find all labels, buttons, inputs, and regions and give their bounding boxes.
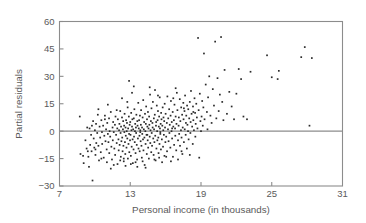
data-point [154, 135, 156, 137]
data-point [157, 139, 159, 141]
data-point [119, 110, 121, 112]
data-point [168, 140, 170, 142]
data-point [137, 102, 139, 104]
data-point [172, 156, 174, 158]
data-point [152, 101, 154, 103]
data-point [96, 132, 98, 134]
data-point [182, 127, 184, 129]
x-tick-label: 31 [337, 188, 348, 199]
data-point [142, 117, 144, 119]
data-point [93, 138, 95, 140]
data-point [123, 160, 125, 162]
data-point [224, 69, 226, 71]
data-point [139, 129, 141, 131]
data-point [122, 150, 124, 152]
data-point [105, 140, 107, 142]
data-point [304, 46, 306, 48]
data-point [156, 148, 158, 150]
x-tick-label: 7 [57, 188, 62, 199]
data-point [91, 150, 93, 152]
data-point [127, 158, 129, 160]
data-point [136, 159, 138, 161]
data-point [95, 123, 97, 125]
data-point [158, 126, 160, 128]
data-point [190, 90, 192, 92]
data-point [147, 139, 149, 141]
data-point [167, 96, 169, 98]
data-point [164, 103, 166, 105]
data-point [146, 118, 148, 120]
data-point [133, 149, 135, 151]
data-point [127, 128, 129, 130]
y-tick-label: −30 [38, 180, 54, 191]
data-point [91, 125, 93, 127]
data-point [88, 166, 90, 168]
data-point [206, 111, 208, 113]
data-point [173, 144, 175, 146]
data-point [142, 139, 144, 141]
data-point [101, 143, 103, 145]
data-point [211, 122, 213, 124]
data-point [138, 148, 140, 150]
data-point [191, 126, 193, 128]
data-point [183, 107, 185, 109]
data-point [86, 148, 88, 150]
data-point [226, 113, 228, 115]
data-point [198, 157, 200, 159]
data-point [152, 127, 154, 129]
data-point [174, 104, 176, 106]
data-point [87, 150, 89, 152]
data-point [207, 128, 209, 130]
data-point [157, 95, 159, 97]
data-point [200, 130, 202, 132]
data-point [185, 134, 187, 136]
data-point [163, 120, 165, 122]
data-point [143, 128, 145, 130]
data-point [190, 121, 192, 123]
data-point [110, 168, 112, 170]
data-point [104, 118, 106, 120]
data-point [94, 129, 96, 131]
data-point [243, 116, 245, 118]
data-point [161, 125, 163, 127]
data-point [217, 77, 219, 79]
data-point [99, 126, 101, 128]
data-point [159, 131, 161, 133]
data-point [163, 117, 165, 119]
data-point [135, 132, 137, 134]
data-point [146, 153, 148, 155]
data-point [177, 109, 179, 111]
data-point [139, 131, 141, 133]
data-point [116, 128, 118, 130]
data-point [107, 133, 109, 135]
data-point [95, 142, 97, 144]
data-point [180, 120, 182, 122]
data-point [129, 121, 131, 123]
data-point [119, 160, 121, 162]
data-point [145, 143, 147, 145]
y-tick-label: −15 [38, 153, 54, 164]
data-point [129, 139, 131, 141]
data-point [219, 94, 221, 96]
data-point [82, 155, 84, 157]
data-point [169, 124, 171, 126]
data-point [228, 91, 230, 93]
data-point [162, 129, 164, 131]
data-point [118, 129, 120, 131]
data-point [141, 145, 143, 147]
data-point [189, 101, 191, 103]
data-point [89, 144, 91, 146]
data-point [159, 97, 161, 99]
data-point [98, 108, 100, 110]
data-point [116, 109, 118, 111]
data-point [149, 94, 151, 96]
data-point [106, 161, 108, 163]
data-point [114, 124, 116, 126]
data-point [149, 86, 151, 88]
data-point [133, 86, 135, 88]
x-axis-title: Personal income (in thousands) [132, 204, 270, 215]
data-point [135, 127, 137, 129]
data-point [130, 163, 132, 165]
data-point [207, 97, 209, 99]
data-point [300, 56, 302, 58]
